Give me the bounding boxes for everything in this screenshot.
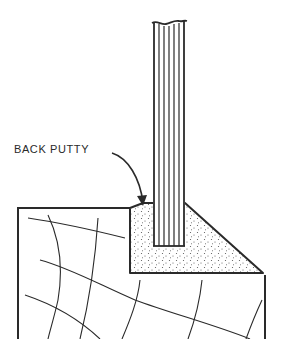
glazing-diagram: [0, 0, 292, 339]
back-putty: [130, 203, 263, 273]
glass-pane: [152, 21, 187, 247]
leader-arrow: [112, 153, 147, 206]
back-putty-label: BACK PUTTY: [14, 143, 89, 155]
